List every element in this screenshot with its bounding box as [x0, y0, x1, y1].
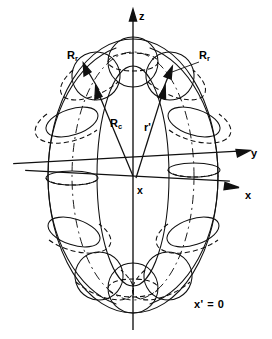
minor-radius-right-label-sub: r: [207, 54, 210, 63]
plane-label: x' = 0: [194, 299, 224, 310]
position-vector-line: [136, 92, 163, 178]
torus-diagram-svg: [0, 0, 272, 339]
position-vector-arrowhead: [158, 86, 165, 99]
minor-radius-left-label-main: R: [67, 49, 75, 61]
z-axis-arrowhead: [129, 9, 136, 21]
major-radius-label: Rc: [110, 118, 122, 129]
major-radius-label-sub: c: [118, 122, 122, 131]
y-axis-arrowhead: [236, 150, 250, 157]
minor-radius-left-label: Rr: [67, 50, 78, 61]
major-radius-arrowhead: [95, 86, 102, 100]
figure-canvas: z y x x Rr Rr Rc r' x' = 0: [0, 0, 272, 339]
z-axis-label: z: [139, 11, 145, 22]
major-radius-line: [98, 92, 133, 176]
minor-radius-left-label-sub: r: [75, 54, 78, 63]
cross-section-ring-lower-left: [67, 244, 132, 309]
x-axis-arrowhead: [224, 183, 239, 190]
x-axis-label: x: [245, 190, 251, 201]
minor-radius-right-label-main: R: [199, 49, 207, 61]
position-vector-label: r': [144, 122, 151, 133]
major-radius-label-main: R: [110, 117, 118, 129]
minor-radius-right-label: Rr: [199, 50, 210, 61]
origin-label: x: [137, 185, 143, 196]
y-axis-label: y: [251, 148, 257, 159]
cross-section-ring-midlower-left: [44, 211, 103, 252]
radius-annotation-group: [83, 62, 199, 178]
y-axis-line: [13, 151, 243, 164]
minor-radius-right-arrowhead: [164, 66, 172, 79]
x-axis-line: [25, 170, 230, 181]
